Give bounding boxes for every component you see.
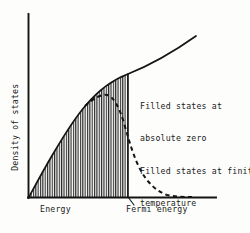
annotation-absolute-zero-line-1: Filled states at	[140, 101, 222, 112]
annotation-filled-states-finite-temperature: Filled states at finite temperature	[140, 145, 250, 229]
filled-states-shaded-region	[28, 70, 129, 198]
density-of-states-figure: Filled states at absolute zero Filled st…	[0, 0, 250, 233]
annotation-absolute-zero-line-2: absolute zero	[140, 133, 222, 144]
x-axis-label-energy: Energy	[40, 204, 71, 215]
y-axis-label-density-of-states: Density of states	[10, 72, 21, 182]
annotation-finite-temp-line-1: Filled states at finite	[140, 166, 250, 177]
x-axis-label-fermi-energy: Fermi energy	[126, 204, 188, 215]
